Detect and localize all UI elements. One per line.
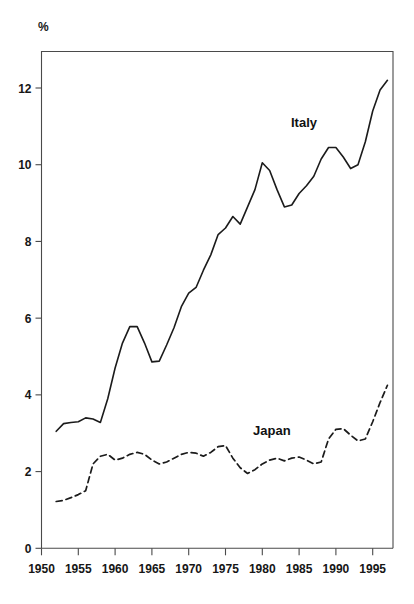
x-axis-tick-labels: 1950195519601965197019751980198519901995 xyxy=(28,562,386,576)
x-tick-label-1965: 1965 xyxy=(139,562,166,576)
series-label-italy: Italy xyxy=(291,115,317,130)
axes xyxy=(42,52,394,549)
y-tick-label-12: 12 xyxy=(18,82,32,96)
line-chart-plot: 024681012 195019551960196519701975198019… xyxy=(0,0,414,604)
plot-border xyxy=(42,52,394,549)
y-tick-label-6: 6 xyxy=(25,312,32,326)
series-label-japan: Japan xyxy=(253,423,291,438)
series-path-italy xyxy=(56,80,387,431)
x-tick-label-1970: 1970 xyxy=(175,562,202,576)
data-series xyxy=(56,80,387,501)
y-tick-label-0: 0 xyxy=(25,542,32,556)
y-tick-label-10: 10 xyxy=(18,158,32,172)
x-tick-label-1985: 1985 xyxy=(286,562,313,576)
x-tick-label-1995: 1995 xyxy=(359,562,386,576)
y-tick-label-4: 4 xyxy=(25,388,32,402)
x-tick-label-1980: 1980 xyxy=(249,562,276,576)
y-tick-label-2: 2 xyxy=(25,465,32,479)
x-tick-label-1955: 1955 xyxy=(65,562,92,576)
y-tick-label-8: 8 xyxy=(25,235,32,249)
chart-container: % 024681012 1950195519601965197019751980… xyxy=(0,0,414,604)
x-tick-label-1975: 1975 xyxy=(212,562,239,576)
x-tick-label-1960: 1960 xyxy=(102,562,129,576)
y-axis-tick-labels: 024681012 xyxy=(18,82,32,556)
x-tick-label-1990: 1990 xyxy=(323,562,350,576)
x-tick-label-1950: 1950 xyxy=(28,562,55,576)
